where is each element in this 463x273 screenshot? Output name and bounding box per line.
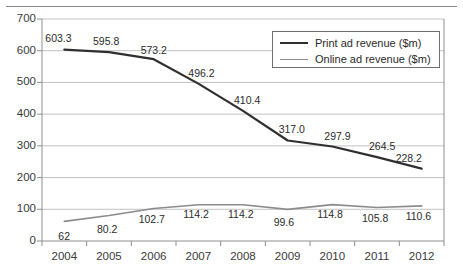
y-axis-tick-label: 300 (2, 140, 36, 151)
y-axis-tick-label: 200 (2, 172, 36, 183)
x-axis-tick-label: 2011 (355, 250, 400, 262)
data-label-online: 114.2 (228, 209, 254, 220)
y-axis-tick-label: 100 (2, 203, 36, 214)
data-label-print: 595.8 (93, 36, 119, 47)
data-label-online: 114.8 (317, 209, 343, 220)
x-axis-tick-label: 2009 (265, 250, 310, 262)
y-axis-tick-label: 400 (2, 108, 36, 119)
x-axis-tick-label: 2004 (42, 250, 87, 262)
chart-legend: Print ad revenue ($m) Online ad revenue … (272, 31, 440, 68)
y-axis-tick-label: 700 (2, 13, 36, 24)
data-label-print: 573.2 (141, 45, 167, 56)
y-axis-tick-label: 0 (2, 235, 36, 246)
x-axis-tick-label: 2005 (87, 250, 132, 262)
chart-figure: 0100200300400500600700 20042005200620072… (0, 0, 463, 273)
legend-item-online: Online ad revenue ($m) (280, 51, 431, 67)
y-axis-tick-label: 600 (2, 45, 36, 56)
data-label-online: 102.7 (139, 214, 165, 225)
data-label-online: 114.2 (183, 209, 209, 220)
data-label-online: 110.6 (406, 211, 432, 222)
legend-line-swatch-online-icon (280, 59, 308, 60)
legend-line-swatch-print-icon (280, 42, 308, 44)
data-label-print: 297.9 (324, 131, 350, 142)
data-label-print: 228.2 (396, 153, 422, 164)
data-label-online: 105.8 (362, 213, 388, 224)
x-axis-tick-label: 2012 (399, 250, 444, 262)
data-label-print: 264.5 (369, 141, 395, 152)
x-tick-marks-group (42, 241, 444, 246)
y-axis-tick-label: 500 (2, 76, 36, 87)
data-label-online: 99.6 (274, 217, 294, 228)
x-axis-tick-label: 2007 (176, 250, 221, 262)
legend-label-online: Online ad revenue ($m) (315, 53, 431, 65)
x-axis-tick-label: 2008 (221, 250, 266, 262)
data-label-online: 62 (58, 231, 70, 242)
data-label-print: 410.4 (234, 95, 260, 106)
data-label-print: 496.2 (188, 68, 214, 79)
x-axis-tick-label: 2010 (310, 250, 355, 262)
data-label-online: 80.2 (97, 224, 117, 235)
legend-label-print: Print ad revenue ($m) (315, 37, 421, 49)
x-axis-tick-label: 2006 (131, 250, 176, 262)
series-lines-group (64, 50, 421, 222)
y-tick-marks-group (37, 19, 42, 241)
legend-item-print: Print ad revenue ($m) (280, 35, 421, 51)
data-label-print: 317.0 (279, 124, 305, 135)
data-label-print: 603.3 (45, 33, 71, 44)
